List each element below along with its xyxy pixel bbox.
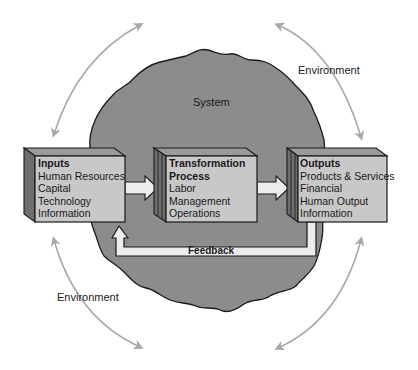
inputs-box-text: Inputs Human Resources Capital Technolog… [38, 157, 125, 220]
outputs-title: Outputs [300, 157, 395, 170]
inputs-title: Inputs [38, 157, 125, 170]
transformation-title-line2: Process [169, 170, 245, 183]
outputs-item: Human Output [300, 195, 395, 208]
environment-label-bottom: Environment [57, 291, 119, 304]
systems-diagram: System Environment Environment Inputs Hu… [0, 0, 418, 370]
inputs-item: Information [38, 207, 125, 220]
transformation-item: Management [169, 195, 245, 208]
outputs-item: Products & Services [300, 170, 395, 183]
environment-label-top: Environment [298, 64, 360, 77]
transformation-item: Operations [169, 207, 245, 220]
feedback-label: Feedback [188, 245, 234, 256]
transformation-box-text: Transformation Process Labor Management … [169, 157, 245, 220]
system-label: System [193, 96, 230, 109]
inputs-item: Human Resources [38, 170, 125, 183]
inputs-item: Capital [38, 182, 125, 195]
transformation-title-line1: Transformation [169, 157, 245, 170]
transformation-item: Labor [169, 182, 245, 195]
outputs-item: Financial [300, 182, 395, 195]
outputs-box-text: Outputs Products & Services Financial Hu… [300, 157, 395, 220]
outputs-item: Information [300, 207, 395, 220]
inputs-item: Technology [38, 195, 125, 208]
